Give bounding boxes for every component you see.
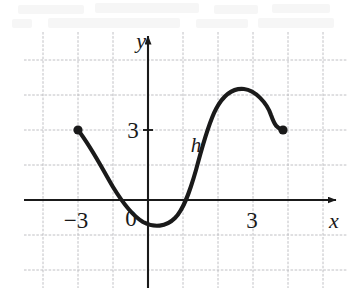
y-tick-label-three: 3 xyxy=(127,118,139,143)
figure-background xyxy=(0,0,359,303)
curve-label-h: h xyxy=(191,133,202,157)
left-endpoint-dot xyxy=(73,125,82,134)
x-axis-label: x xyxy=(328,208,339,233)
x-tick-label-three: 3 xyxy=(246,208,258,233)
x-tick-label-origin: 0 xyxy=(125,206,137,231)
right-endpoint-dot xyxy=(278,125,287,134)
y-axis-label: y xyxy=(134,28,146,53)
x-tick-label-negative-three: −3 xyxy=(64,208,88,233)
graph-figure: y x −3 0 3 3 h xyxy=(0,0,359,303)
